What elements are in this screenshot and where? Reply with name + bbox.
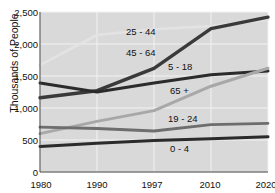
x-tick-label: 2010 (190, 180, 230, 190)
y-tick-label: 500 (2, 136, 38, 146)
x-tick-label: 2020 (246, 180, 275, 190)
y-tick-label: 0 (2, 168, 38, 178)
series-annotation-5-18: 5 - 18 (168, 61, 192, 72)
series-annotation-25-44: 25 - 44 (126, 26, 156, 37)
y-tick-label: 2,500 (2, 8, 38, 18)
y-tick-label: 1,500 (2, 72, 38, 82)
line-chart: Thousands of People 0 500 1,000 1,500 2,… (0, 0, 275, 193)
y-tick-label: 2,000 (2, 40, 38, 50)
series-annotation-0-4: 0 - 4 (170, 143, 189, 154)
x-tick-label: 1990 (77, 180, 117, 190)
y-axis-tick-labels: 0 500 1,000 1,500 2,000 2,500 (0, 0, 38, 193)
series-annotation-19-24: 19 - 24 (168, 113, 198, 124)
x-tick-label: 1980 (21, 180, 61, 190)
x-tick-label: 1997 (132, 180, 172, 190)
series-annotation-45-64: 45 - 64 (126, 47, 156, 58)
series-annotation-65-plus: 65 + (170, 85, 189, 96)
y-tick-label: 1,000 (2, 104, 38, 114)
